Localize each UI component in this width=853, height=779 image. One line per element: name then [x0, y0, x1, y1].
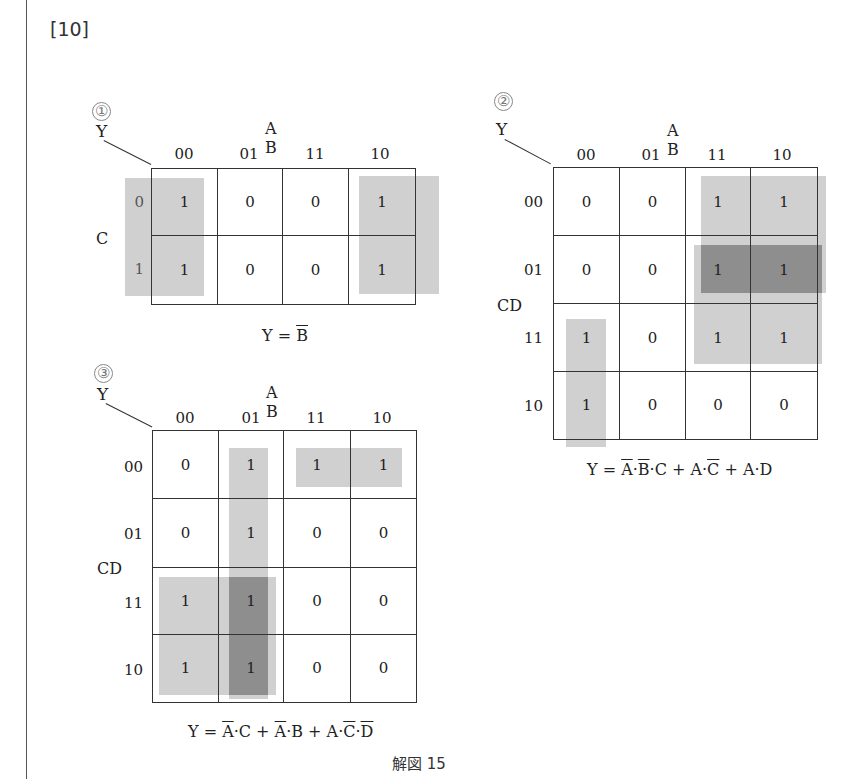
- cell: 1: [751, 168, 817, 236]
- cell: 0: [284, 635, 351, 702]
- corner-diagonal: [104, 140, 152, 165]
- cell: 1: [554, 304, 620, 372]
- formula: Y = B: [262, 326, 308, 345]
- corner-diagonal: [106, 403, 153, 427]
- cell: 0: [620, 372, 686, 439]
- row-header: 11: [113, 594, 143, 612]
- cell: 0: [153, 431, 219, 499]
- kmap-grid: 1 0 0 1 1 0 0 1: [151, 168, 416, 305]
- cell: 1: [153, 568, 219, 635]
- section-label: [10]: [50, 18, 89, 40]
- col-header: 11: [684, 146, 750, 164]
- cell: 0: [620, 304, 686, 372]
- col-header: 10: [349, 409, 415, 427]
- cell: 0: [620, 236, 686, 304]
- row-var-label: CD: [497, 296, 522, 315]
- cell: 1: [349, 169, 415, 236]
- cell: 1: [686, 236, 751, 304]
- formula-part: A: [275, 722, 287, 741]
- row-var-label: CD: [97, 559, 122, 578]
- corner-diagonal: [505, 139, 551, 164]
- cell: 1: [351, 431, 416, 499]
- col-header: 00: [151, 145, 217, 163]
- output-label: Y: [496, 119, 507, 139]
- formula-part: Y =: [262, 326, 296, 345]
- cell: 0: [554, 236, 620, 304]
- row-header: 00: [513, 193, 543, 211]
- output-label: Y: [96, 121, 107, 141]
- row-header: 00: [113, 458, 143, 476]
- formula-part: B: [296, 326, 308, 345]
- formula-part: C: [707, 460, 719, 479]
- cell: 0: [686, 372, 751, 439]
- row-header: 01: [513, 261, 543, 279]
- cell: 1: [349, 236, 415, 304]
- row-header: 11: [513, 329, 543, 347]
- col-header: 00: [152, 409, 218, 427]
- cell: 0: [284, 568, 351, 635]
- formula-part: B: [638, 460, 650, 479]
- formula-part: ·C +: [234, 722, 275, 741]
- formula-part: A: [222, 722, 234, 741]
- cell: 0: [351, 568, 416, 635]
- cell: 1: [219, 568, 284, 635]
- cell: 1: [153, 635, 219, 702]
- cell: 1: [284, 431, 351, 499]
- col-header: 01: [218, 409, 284, 427]
- formula-part: Y =: [188, 722, 222, 741]
- formula: Y = A·C + A·B + A·C·D: [188, 722, 373, 741]
- cell: 1: [686, 168, 751, 236]
- margin-rule: [26, 0, 27, 779]
- col-header: 11: [282, 145, 348, 163]
- kmap-grid: 0 0 1 1 0 0 1 1 1 0 1 1 1 0 0 0: [553, 167, 818, 440]
- cell: 0: [218, 169, 283, 236]
- cell: 1: [152, 169, 218, 236]
- cell: 1: [152, 236, 218, 304]
- cell: 1: [219, 499, 284, 568]
- cell: 0: [284, 499, 351, 568]
- row-var-label: C: [96, 229, 108, 248]
- cell: 0: [283, 236, 349, 304]
- row-header: 01: [113, 525, 143, 543]
- number-mark: ①: [92, 102, 111, 121]
- kmap-grid: 0 1 1 1 0 1 0 0 1 1 0 0 1 1 0 0: [152, 430, 417, 703]
- cell: 1: [751, 236, 817, 304]
- number-mark: ②: [494, 92, 513, 111]
- col-header: 10: [347, 145, 413, 163]
- col-header: 11: [283, 409, 349, 427]
- cell: 0: [351, 499, 416, 568]
- formula-part: ·B + A·: [286, 722, 343, 741]
- number-mark: ③: [94, 364, 113, 383]
- cell: 1: [219, 431, 284, 499]
- cell: 0: [620, 168, 686, 236]
- cell: 1: [554, 372, 620, 439]
- formula-part: A: [621, 460, 633, 479]
- figure-caption: 解図 15: [392, 752, 446, 773]
- cell: 0: [218, 236, 283, 304]
- formula-part: D: [361, 722, 374, 741]
- col-header: 00: [553, 146, 619, 164]
- cell: 0: [283, 169, 349, 236]
- col-header: 01: [618, 146, 684, 164]
- formula: Y = A·B·C + A·C + A·D: [587, 460, 772, 479]
- col-header: 01: [216, 145, 282, 163]
- cell: 1: [219, 635, 284, 702]
- cell: 0: [751, 372, 817, 439]
- output-label: Y: [97, 384, 108, 404]
- col-header: 10: [749, 146, 815, 164]
- formula-part: + A·D: [719, 460, 772, 479]
- cell: 0: [153, 499, 219, 568]
- row-header: 10: [113, 661, 143, 679]
- cell: 1: [686, 304, 751, 372]
- row-header: 10: [513, 397, 543, 415]
- cell: 0: [351, 635, 416, 702]
- formula-part: C: [343, 722, 355, 741]
- cell: 0: [554, 168, 620, 236]
- cell: 1: [751, 304, 817, 372]
- formula-part: ·C + A·: [650, 460, 708, 479]
- formula-part: Y =: [587, 460, 621, 479]
